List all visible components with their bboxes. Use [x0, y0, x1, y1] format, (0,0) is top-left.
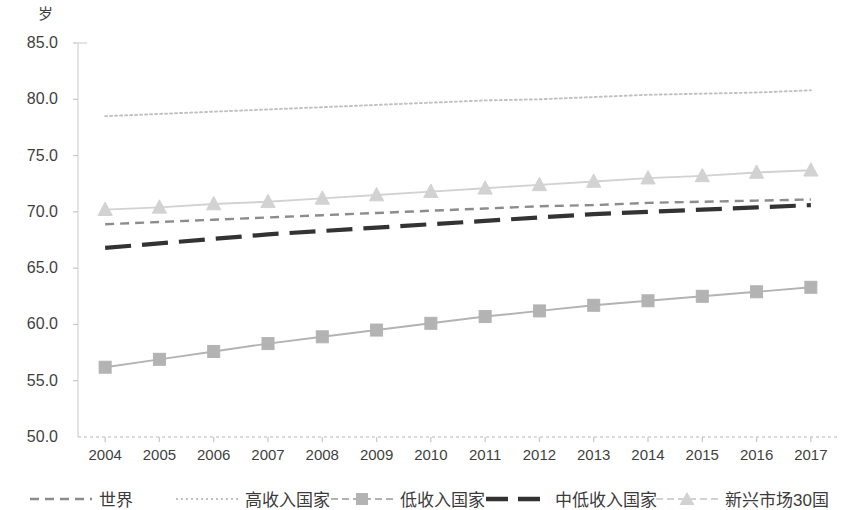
legend-item-label: 低收入国家 — [400, 486, 485, 510]
data-point-marker-square — [153, 353, 165, 365]
life-expectancy-line-chart: 岁 85.080.075.070.065.060.055.050.0 20042… — [0, 0, 849, 510]
series-中低收入国家 — [105, 205, 811, 248]
legend-square-marker — [356, 493, 368, 505]
legend-key-dashed-line-icon — [30, 491, 92, 507]
chart-legend: 世界高收入国家低收入国家中低收入国家新兴市场30国 — [0, 482, 849, 510]
data-point-marker-square — [805, 281, 817, 293]
legend-item[interactable]: 中低收入国家 — [486, 486, 657, 510]
legend-key-thick-dashed-line-icon — [486, 491, 548, 507]
legend-item[interactable]: 高收入国家 — [176, 486, 330, 510]
series-低收入国家 — [99, 281, 817, 373]
data-point-marker-triangle — [804, 163, 818, 176]
data-point-marker-square — [696, 290, 708, 302]
legend-key-dotted-line-icon — [176, 491, 238, 507]
data-point-marker-square — [642, 295, 654, 307]
legend-item-label: 世界 — [99, 486, 133, 510]
data-point-marker-square — [533, 305, 545, 317]
data-point-marker-square — [751, 286, 763, 298]
legend-item-label: 新兴市场30国 — [725, 486, 829, 510]
legend-key-line-square-marker-icon — [331, 491, 393, 507]
data-point-marker-square — [208, 345, 220, 357]
legend-item-label: 中低收入国家 — [555, 486, 657, 510]
data-point-marker-square — [479, 311, 491, 323]
series-line — [105, 90, 811, 116]
data-point-marker-square — [99, 361, 111, 373]
legend-key-line-triangle-marker-icon — [656, 491, 718, 507]
series-高收入国家 — [105, 90, 811, 116]
legend-item[interactable]: 低收入国家 — [331, 486, 485, 510]
data-point-marker-square — [316, 331, 328, 343]
legend-item[interactable]: 新兴市场30国 — [656, 486, 829, 510]
data-point-marker-square — [425, 317, 437, 329]
legend-item-label: 高收入国家 — [245, 486, 330, 510]
data-point-marker-square — [371, 324, 383, 336]
data-point-marker-square — [588, 299, 600, 311]
legend-item[interactable]: 世界 — [30, 486, 133, 510]
plot-area — [0, 0, 849, 510]
series-line — [105, 205, 811, 248]
data-point-marker-square — [262, 338, 274, 350]
